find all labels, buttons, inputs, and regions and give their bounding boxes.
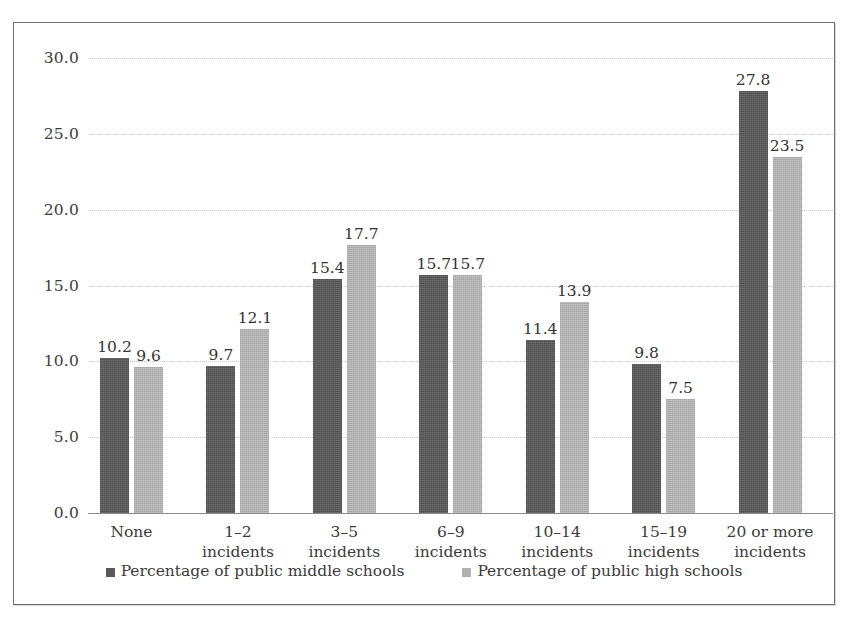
bar: 9.8: [632, 364, 661, 513]
legend-swatch-middle-schools: [106, 568, 115, 577]
bar-group: 10.29.6None: [88, 58, 194, 513]
bar-value-label: 9.8: [634, 344, 659, 362]
x-axis-category-label: None: [88, 522, 175, 542]
legend-swatch-high-schools: [462, 568, 471, 577]
bar-series-layer: 10.29.6None9.712.11–2 incidents15.417.73…: [88, 58, 833, 513]
legend-item: Percentage of public middle schools: [106, 562, 405, 580]
bar: 7.5: [666, 399, 695, 513]
bar-value-label: 9.6: [136, 347, 161, 365]
bar: 15.7: [419, 275, 448, 513]
bar: 11.4: [526, 340, 555, 513]
bar: 13.9: [560, 302, 589, 513]
bar-value-label: 11.4: [523, 320, 558, 338]
chart-legend: Percentage of public middle schoolsPerce…: [14, 562, 834, 580]
bar-group: 9.87.515–19 incidents: [620, 58, 726, 513]
bar: 15.4: [313, 279, 342, 513]
bar-value-label: 13.9: [557, 282, 592, 300]
chart-figure-frame: 0.05.010.015.020.025.030.0 10.29.6None9.…: [13, 22, 835, 605]
bar-value-label: 7.5: [668, 379, 693, 397]
x-axis-category-label: 1–2 incidents: [194, 522, 281, 563]
bar-value-label: 17.7: [344, 225, 379, 243]
bar-value-label: 12.1: [238, 309, 273, 327]
bar: 27.8: [739, 91, 768, 513]
legend-label: Percentage of public middle schools: [121, 562, 405, 580]
bar: 9.7: [206, 366, 235, 513]
y-axis-tick-label: 10.0: [44, 352, 79, 370]
bar-value-label: 23.5: [770, 137, 805, 155]
plot-area: 0.05.010.015.020.025.030.0 10.29.6None9.…: [88, 58, 833, 513]
y-axis-tick-label: 5.0: [54, 428, 79, 446]
x-axis-category-label: 10–14 incidents: [514, 522, 601, 563]
bar-value-label: 27.8: [736, 71, 771, 89]
y-axis-tick-label: 30.0: [44, 49, 79, 67]
bar-value-label: 9.7: [209, 346, 234, 364]
bar-group: 15.417.73–5 incidents: [301, 58, 407, 513]
bar-value-label: 15.7: [417, 255, 452, 273]
bar: 17.7: [347, 245, 376, 513]
bar: 15.7: [453, 275, 482, 513]
bar-value-label: 10.2: [97, 338, 132, 356]
bar-group: 9.712.11–2 incidents: [194, 58, 300, 513]
bar-group: 11.413.910–14 incidents: [514, 58, 620, 513]
legend-item: Percentage of public high schools: [462, 562, 742, 580]
bar-group: 15.715.76–9 incidents: [407, 58, 513, 513]
bar: 9.6: [134, 367, 163, 513]
x-axis-category-label: 20 or more incidents: [727, 522, 814, 563]
y-axis-tick-label: 25.0: [44, 125, 79, 143]
x-axis-category-label: 3–5 incidents: [301, 522, 388, 563]
bar: 23.5: [773, 157, 802, 513]
y-axis-tick-label: 0.0: [54, 504, 79, 522]
y-axis-tick-label: 15.0: [44, 277, 79, 295]
bar: 10.2: [100, 358, 129, 513]
legend-label: Percentage of public high schools: [477, 562, 742, 580]
x-axis-category-label: 15–19 incidents: [620, 522, 707, 563]
bar-group: 27.823.520 or more incidents: [727, 58, 833, 513]
bar: 12.1: [240, 329, 269, 513]
axis-baseline: [88, 513, 833, 514]
x-axis-category-label: 6–9 incidents: [407, 522, 494, 563]
y-axis-tick-label: 20.0: [44, 201, 79, 219]
bar-value-label: 15.7: [451, 255, 486, 273]
bar-value-label: 15.4: [310, 259, 345, 277]
